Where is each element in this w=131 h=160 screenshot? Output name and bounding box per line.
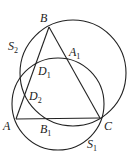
label-b1: B1 — [40, 122, 51, 138]
label-d1: D1 — [37, 64, 51, 80]
label-c: C — [104, 119, 113, 133]
label-a: A — [2, 119, 11, 133]
circle-s2 — [20, 20, 126, 126]
label-d2: D2 — [28, 89, 42, 105]
label-s2: S2 — [8, 39, 18, 55]
label-b: B — [40, 11, 48, 25]
geometry-diagram: B A C A1 D1 D2 B1 S2 S1 — [0, 0, 131, 160]
label-a1: A1 — [68, 45, 80, 61]
label-s1: S1 — [87, 137, 97, 153]
segment-bc — [49, 27, 100, 118]
segment-ca — [16, 118, 100, 119]
